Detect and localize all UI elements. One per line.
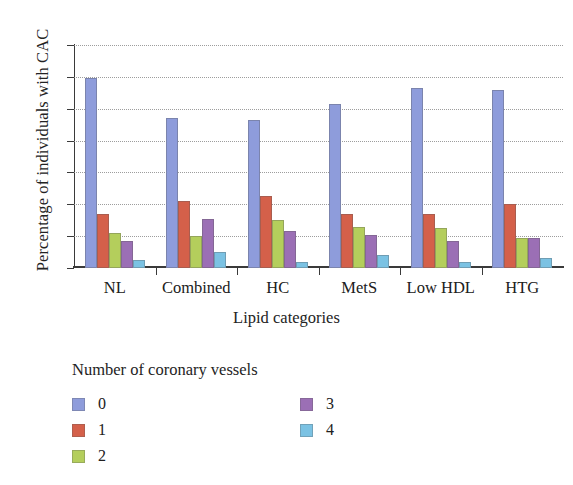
y-tick-mark <box>67 236 74 237</box>
bar-group <box>156 45 238 268</box>
x-tick-mark <box>400 268 401 275</box>
bar-group <box>400 45 482 268</box>
bar <box>341 214 353 268</box>
legend-swatch <box>300 398 313 411</box>
bar <box>248 120 260 268</box>
legend-item[interactable]: 0 <box>72 396 106 412</box>
legend-item-label: 0 <box>98 396 106 412</box>
legend-item-label: 3 <box>326 396 334 412</box>
y-tick-mark <box>67 109 74 110</box>
bar <box>540 258 552 268</box>
bar <box>516 238 528 268</box>
bar <box>190 236 202 268</box>
x-tick-label: HTG <box>482 278 564 298</box>
legend-swatch <box>300 424 313 437</box>
x-tick-label: Low HDL <box>400 278 482 298</box>
y-tick-mark <box>67 141 74 142</box>
legend-item-label: 4 <box>326 422 334 438</box>
legend-item[interactable]: 2 <box>72 448 106 464</box>
bar <box>435 228 447 268</box>
bar <box>214 252 226 268</box>
bar-group <box>319 45 401 268</box>
bar <box>377 255 389 268</box>
bar <box>504 204 516 268</box>
bar <box>411 88 423 268</box>
y-tick-mark <box>67 45 74 46</box>
bar <box>202 219 214 268</box>
legend-items: 01234 <box>72 396 492 472</box>
legend-swatch <box>72 424 85 437</box>
bars-layer <box>74 45 563 268</box>
legend-title: Number of coronary vessels <box>72 360 492 380</box>
bar-group <box>237 45 319 268</box>
bar <box>459 262 471 268</box>
bar <box>97 214 109 268</box>
bar <box>272 220 284 268</box>
x-tick-mark <box>482 268 483 275</box>
legend-item[interactable]: 3 <box>300 396 334 412</box>
x-axis-title: Lipid categories <box>0 308 573 328</box>
legend-swatch <box>72 398 85 411</box>
legend-item[interactable]: 4 <box>300 422 334 438</box>
bar <box>447 241 459 268</box>
bar <box>166 118 178 268</box>
x-tick-mark <box>319 268 320 275</box>
bar-group <box>482 45 564 268</box>
bar <box>492 90 504 268</box>
x-tick-label: NL <box>74 278 156 298</box>
y-tick-mark <box>67 77 74 78</box>
bar <box>296 262 308 268</box>
bar-group <box>74 45 156 268</box>
bar <box>423 214 435 268</box>
bar <box>109 233 121 268</box>
y-tick-mark <box>67 172 74 173</box>
bar <box>528 238 540 268</box>
bar-chart-figure: Percentage of individuals with CAC 01020… <box>0 0 573 485</box>
bar <box>121 241 133 268</box>
legend-swatch <box>72 450 85 463</box>
legend: Number of coronary vessels 01234 <box>72 360 492 472</box>
y-axis-title: Percentage of individuals with CAC <box>33 15 53 285</box>
y-tick-mark <box>67 204 74 205</box>
bar <box>365 235 377 268</box>
legend-item-label: 2 <box>98 448 106 464</box>
x-tick-label: MetS <box>319 278 401 298</box>
y-tick-mark <box>67 268 74 269</box>
x-tick-mark <box>237 268 238 275</box>
plot-area: 010203040506070 <box>74 45 563 268</box>
bar <box>85 78 97 268</box>
legend-item-label: 1 <box>98 422 106 438</box>
bar <box>284 231 296 268</box>
x-tick-label: Combined <box>156 278 238 298</box>
bar <box>329 104 341 268</box>
bar <box>353 227 365 268</box>
x-tick-label: HC <box>237 278 319 298</box>
legend-item[interactable]: 1 <box>72 422 106 438</box>
bar <box>260 196 272 268</box>
x-tick-mark <box>156 268 157 275</box>
bar <box>133 260 145 268</box>
bar <box>178 201 190 268</box>
